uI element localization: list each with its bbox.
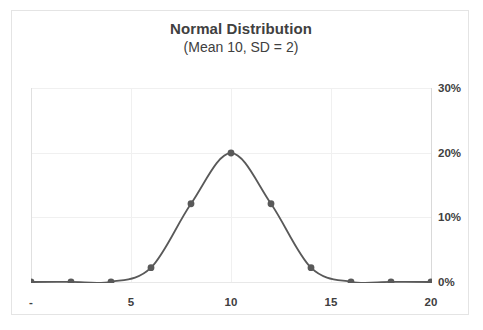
chart-title-block: Normal Distribution (Mean 10, SD = 2): [12, 19, 470, 57]
ytick-label-10: 10%: [438, 211, 478, 223]
xtick-label-10: 10: [201, 296, 261, 308]
series-markers: [31, 150, 432, 283]
chart-container: Normal Distribution (Mean 10, SD = 2) 30…: [11, 10, 469, 315]
chart-subtitle: (Mean 10, SD = 2): [12, 38, 470, 57]
ytick-label-30: 30%: [438, 82, 478, 94]
data-point: [228, 150, 235, 157]
data-point: [388, 279, 395, 283]
data-series-normal-pdf: [31, 88, 432, 283]
data-point: [148, 264, 155, 271]
data-point: [348, 278, 355, 283]
data-point: [188, 200, 195, 207]
data-point: [428, 279, 432, 283]
xtick-label-0: -: [1, 296, 61, 308]
plot-area: [31, 88, 431, 282]
xtick-label-5: 5: [101, 296, 161, 308]
data-point: [31, 279, 34, 283]
xtick-label-15: 15: [301, 296, 361, 308]
chart-title: Normal Distribution: [12, 19, 470, 38]
data-point: [308, 264, 315, 271]
series-line: [31, 153, 431, 283]
ytick-label-0: 0%: [438, 276, 478, 288]
ytick-label-20: 20%: [438, 147, 478, 159]
data-point: [68, 279, 75, 283]
data-point: [268, 200, 275, 207]
data-point: [108, 278, 115, 283]
xtick-label-20: 20: [401, 296, 461, 308]
